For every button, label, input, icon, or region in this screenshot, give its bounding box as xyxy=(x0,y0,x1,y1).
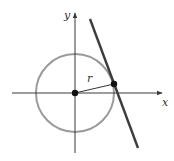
circle-tangent-diagram: y x r xyxy=(0,0,174,161)
radius-label: r xyxy=(87,72,93,85)
radius-segment xyxy=(75,84,114,93)
tangent-point xyxy=(111,81,117,87)
x-axis-label: x xyxy=(162,96,169,109)
y-axis-label: y xyxy=(63,9,71,22)
center-point xyxy=(72,90,78,96)
